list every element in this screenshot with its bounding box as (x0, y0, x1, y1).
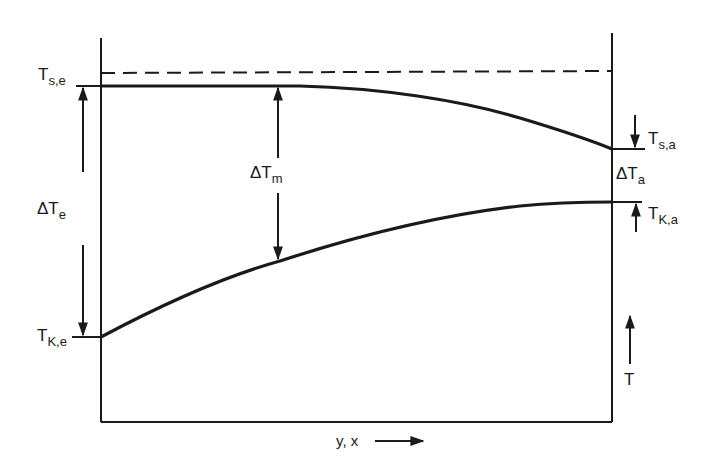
label-t-k-a: TK,a (648, 205, 678, 226)
lower-curve (101, 202, 612, 337)
frame (101, 33, 612, 422)
upper-curve (101, 86, 612, 149)
label-delta-t-m: ΔTm (250, 164, 283, 185)
label-t-s-e: Ts,e (38, 66, 66, 87)
label-t-s-a: Ts,a (648, 130, 676, 151)
label-t-k-e: TK,e (37, 327, 67, 348)
dashed-reference-line (101, 71, 612, 73)
temperature-diagram (0, 0, 718, 468)
label-delta-t-e: ΔTe (37, 200, 66, 221)
label-delta-t-a: ΔTa (616, 165, 645, 186)
label-x-axis: y, x (336, 433, 358, 448)
label-t-axis: T (624, 371, 634, 388)
